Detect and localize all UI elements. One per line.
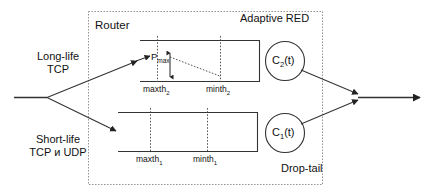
diagram-canvas	[0, 0, 436, 195]
router-label: Router	[95, 19, 130, 33]
upper-capacity-suffix: (t)	[284, 54, 294, 66]
lower-maxth-base: maxth	[136, 154, 159, 164]
upper-minth-base: minth	[206, 84, 227, 94]
input-label-short-life-line2: TCP и UDP	[16, 146, 100, 159]
upper-maxth-subscript: 2	[166, 90, 169, 96]
input-label-long-life-line1: Long-life	[26, 50, 90, 63]
router-queue-diagram: Router Adaptive RED Drop-tail Long-life …	[0, 0, 436, 195]
input-branch-lower	[47, 98, 116, 132]
red-drop-probability-slope	[170, 57, 221, 77]
adaptive-red-label: Adaptive RED	[240, 12, 309, 25]
lower-capacity-base: C	[272, 126, 280, 138]
lower-capacity-suffix: (t)	[284, 126, 294, 138]
lower-maxth-subscript: 1	[159, 160, 162, 166]
lower-capacity-label: C1(t)	[272, 126, 295, 142]
upper-capacity-base: C	[272, 54, 280, 66]
input-label-short-life-line1: Short-life	[16, 133, 100, 146]
pmax-label-subscript: max	[157, 57, 169, 64]
lower-queue-minth-label: minth1	[193, 154, 217, 167]
upper-capacity-label: C2(t)	[272, 54, 295, 70]
lower-minth-base: minth	[193, 154, 214, 164]
upper-minth-subscript: 2	[227, 90, 230, 96]
lower-queue-maxth-label: maxth1	[136, 154, 163, 167]
input-label-long-life: Long-life TCP	[26, 50, 90, 76]
pmax-pointer-arrow	[136, 56, 150, 61]
pmax-label: Pmax	[151, 51, 170, 65]
output-arrow-upper	[301, 70, 358, 94]
input-label-long-life-line2: TCP	[26, 63, 90, 76]
upper-queue-minth-label: minth2	[206, 84, 230, 97]
output-arrow-lower	[301, 100, 358, 124]
input-label-short-life: Short-life TCP и UDP	[16, 133, 100, 159]
lower-minth-subscript: 1	[214, 160, 217, 166]
drop-tail-label: Drop-tail	[281, 162, 323, 175]
upper-maxth-base: maxth	[143, 84, 166, 94]
upper-queue-maxth-label: maxth2	[143, 84, 170, 97]
